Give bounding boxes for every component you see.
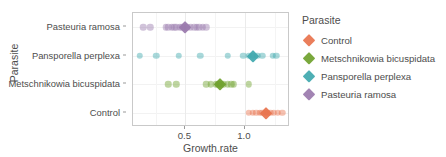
data-point <box>203 24 210 31</box>
data-point <box>279 110 286 117</box>
legend-item-label: Pasteuria ramosa <box>321 89 396 100</box>
data-point <box>140 24 147 31</box>
data-point <box>224 53 231 60</box>
data-point <box>246 81 253 88</box>
y-axis-ticklabel: Pasteuria ramosa <box>47 21 120 32</box>
growth-rate-scatter-figure: Parasite Pasteuria ramosaPansporella per… <box>0 0 446 157</box>
legend-diamond-icon <box>300 31 318 49</box>
data-point <box>136 53 143 60</box>
y-axis-ticklabel: Control <box>90 106 120 117</box>
legend: Parasite ControlMetschnikowia bicuspidat… <box>300 14 446 103</box>
vertical-gridline-minor <box>156 13 157 125</box>
y-axis-ticklabel: Metschnikowia bicuspidata <box>8 78 120 89</box>
legend-item-label: Metschnikowia bicuspidata <box>321 53 435 64</box>
data-point <box>147 24 154 31</box>
legend-diamond-icon <box>300 85 318 103</box>
data-point <box>197 53 204 60</box>
data-point <box>259 53 266 60</box>
legend-item-0[interactable]: Control <box>300 31 446 49</box>
legend-item-label: Pansporella perplexa <box>321 71 411 82</box>
x-axis-ticklabel: 1.0 <box>237 130 250 141</box>
legend-title: Parasite <box>302 14 446 26</box>
data-point <box>165 81 172 88</box>
y-axis-title-text: Parasite <box>8 43 20 82</box>
data-point <box>153 53 160 60</box>
data-point <box>273 53 280 60</box>
legend-items: ControlMetschnikowia bicuspidataPanspore… <box>300 31 446 103</box>
y-axis-tickmark <box>123 83 126 84</box>
data-point <box>230 81 237 88</box>
plot-panel <box>132 12 289 126</box>
legend-item-label: Control <box>321 35 352 46</box>
y-axis-tickmark <box>123 26 126 27</box>
data-point <box>176 53 183 60</box>
x-axis-title: Growth.rate <box>132 142 289 154</box>
y-axis-ticklabels: Pasteuria ramosaPansporella perplexaMets… <box>20 12 126 126</box>
y-axis-ticklabel: Pansporella perplexa <box>32 49 120 60</box>
vertical-gridline-minor <box>215 13 216 125</box>
legend-item-3[interactable]: Pasteuria ramosa <box>300 85 446 103</box>
legend-item-1[interactable]: Metschnikowia bicuspidata <box>300 49 446 67</box>
vertical-gridline-minor <box>275 13 276 125</box>
x-axis-title-text: Growth.rate <box>183 142 238 154</box>
legend-item-2[interactable]: Pansporella perplexa <box>300 67 446 85</box>
legend-diamond-icon <box>300 67 318 85</box>
legend-diamond-icon <box>300 49 318 67</box>
x-axis-tickmark <box>184 126 185 129</box>
y-axis-tickmark <box>123 111 126 112</box>
x-axis-ticklabel: 0.5 <box>178 130 191 141</box>
y-axis-tickmark <box>123 54 126 55</box>
data-point <box>173 81 180 88</box>
vertical-gridline-major <box>245 13 246 125</box>
x-axis-tickmark <box>244 126 245 129</box>
